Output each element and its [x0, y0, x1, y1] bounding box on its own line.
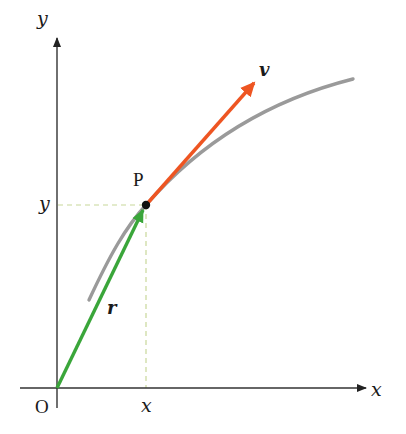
velocity-vector-v — [146, 83, 254, 205]
point-p-label: P — [133, 169, 144, 190]
point-x-label: x — [141, 394, 152, 416]
position-vector-r — [57, 210, 143, 388]
vector-r-label: r — [107, 297, 118, 318]
point-p-dot — [142, 201, 150, 209]
origin-label: O — [35, 396, 49, 417]
trajectory-curve — [89, 79, 353, 300]
y-axis-label: y — [36, 7, 48, 29]
diagram-canvas: y x O x y P r v — [0, 0, 406, 434]
x-axis-label: x — [371, 378, 382, 400]
point-y-label: y — [38, 192, 50, 214]
vector-v-label: v — [259, 59, 270, 80]
